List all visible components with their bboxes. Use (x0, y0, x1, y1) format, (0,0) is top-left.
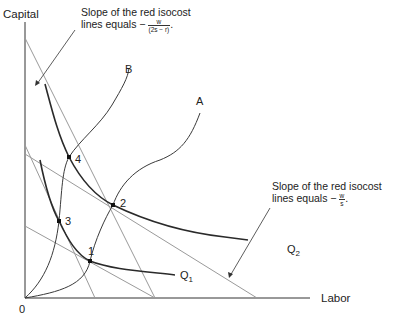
expansion-path-b (25, 68, 129, 298)
top-note-frac-den: (2s − r) (148, 26, 171, 33)
top-note-frac-num: w (148, 18, 171, 26)
point-4-marker (67, 155, 71, 159)
point-3-marker (57, 219, 61, 223)
right-note-line1: Slope of the red isocost (272, 180, 382, 192)
top-note-fraction: w(2s − r) (148, 18, 171, 33)
top-note-suffix: . (170, 18, 173, 30)
q1-base: Q (180, 269, 189, 281)
expansion-path-b-label: B (125, 63, 132, 75)
top-slope-note: Slope of the red isocost lines equals −w… (81, 6, 191, 33)
right-note-line2-text: lines equals − (272, 192, 337, 204)
right-note-suffix: . (345, 192, 348, 204)
diagram-canvas (0, 0, 393, 317)
isocost-line-flat-outer (25, 154, 257, 298)
point-2-marker (111, 203, 115, 207)
expansion-path-a-label: A (196, 95, 203, 107)
right-slope-note: Slope of the red isocost lines equals −w… (272, 180, 382, 207)
isoquant-q1 (40, 160, 175, 275)
q1-subscript: 1 (189, 275, 193, 284)
top-note-line2-text: lines equals − (81, 18, 146, 30)
top-note-line1: Slope of the red isocost (81, 6, 191, 18)
isoquant-q1-label: Q1 (180, 269, 193, 286)
point-1-marker (88, 259, 92, 263)
point-2-label: 2 (120, 197, 126, 209)
x-axis-label: Labor (321, 292, 350, 304)
top-note-line2: lines equals −w(2s − r). (81, 18, 191, 33)
q2-base: Q (287, 243, 296, 255)
top-note-leader-line (37, 30, 75, 84)
y-axis-label: Capital (3, 8, 39, 20)
point-1-label: 1 (88, 245, 94, 257)
right-note-leader-line (230, 208, 270, 276)
point-3-label: 3 (65, 215, 71, 227)
origin-label: 0 (19, 303, 25, 315)
isoquant-q2-label: Q2 (287, 243, 300, 260)
right-note-line2: lines equals −ws. (272, 192, 382, 207)
point-4-label: 4 (75, 153, 81, 165)
q2-subscript: 2 (296, 249, 300, 258)
